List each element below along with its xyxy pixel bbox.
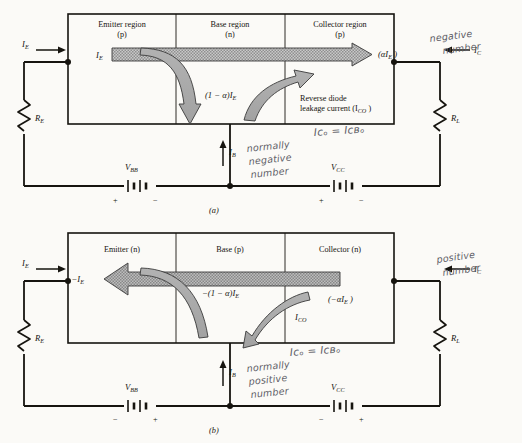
region-label-base-a: Base region (211, 20, 250, 29)
battery-sign-right-vbb-a: − (153, 196, 158, 205)
node-collector-b (391, 278, 397, 284)
region-label-emitter-a: Emitter region (98, 20, 146, 29)
battery-sign-left-vbb-a: + (113, 196, 118, 205)
transistor-current-figure: Emitter region (p) Base region (n) Colle… (0, 0, 522, 443)
node-base-b (227, 403, 233, 409)
resistor-rl-b (434, 320, 446, 354)
figure-canvas: Emitter region (p) Base region (n) Colle… (0, 0, 522, 443)
resistor-rl-a (434, 100, 446, 134)
arrow-label-alpha-ie-a: (αIE ) (378, 49, 397, 60)
resistor-re-b (18, 320, 30, 354)
battery-vbb-a (124, 178, 156, 194)
battery-sign-left-vcc-a: + (319, 196, 324, 205)
battery-vcc-a (330, 178, 362, 194)
battery-sign-right-vbb-b: + (153, 415, 158, 424)
arrow-label-minus-alpha-ie-b: (−αIE ) (328, 294, 353, 305)
region-label-collector-a: Collector region (313, 20, 366, 29)
battery-vbb-b (124, 398, 156, 414)
resistor-re-a (18, 100, 30, 134)
region-label-base-b: Base (p) (216, 245, 244, 254)
region-type-base-a: (n) (225, 30, 235, 39)
arrow-label-recombination-a: (1 − α)IE (205, 90, 237, 101)
panel-caption-a: (a) (209, 206, 219, 215)
battery-vcc-b (330, 398, 362, 414)
leakage-label-line1-a: Reverse diode (300, 94, 347, 103)
battery-sign-left-vbb-b: − (113, 415, 118, 424)
region-type-collector-a: (p) (335, 30, 345, 39)
handwritten-note-base-a: normally negative number (246, 139, 292, 180)
node-collector-a (391, 59, 397, 65)
region-label-collector-b: Collector (n) (319, 245, 361, 254)
node-emitter-a (65, 59, 71, 65)
node-base-a (227, 183, 233, 189)
node-emitter-b (65, 278, 71, 284)
battery-sign-right-vcc-a: − (359, 196, 364, 205)
panel-caption-b: (b) (209, 426, 219, 435)
handwritten-note-base-b: normally positive number (246, 359, 290, 400)
battery-sign-right-vcc-b: + (359, 415, 364, 424)
arrow-label-recombination-b: −(1 − α)IE (202, 288, 239, 299)
battery-sign-left-vcc-b: − (319, 415, 324, 424)
region-type-emitter-a: (p) (117, 30, 127, 39)
region-label-emitter-b: Emitter (n) (104, 245, 140, 254)
